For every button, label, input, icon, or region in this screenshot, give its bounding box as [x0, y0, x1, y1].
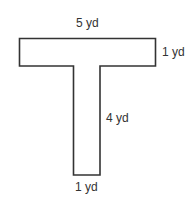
stem-height-label: 4 yd [106, 112, 129, 124]
top-width-label: 5 yd [76, 17, 99, 29]
t-shape-outline [20, 39, 156, 176]
right-height-label: 1 yd [162, 46, 185, 58]
bottom-width-label: 1 yd [75, 181, 98, 193]
